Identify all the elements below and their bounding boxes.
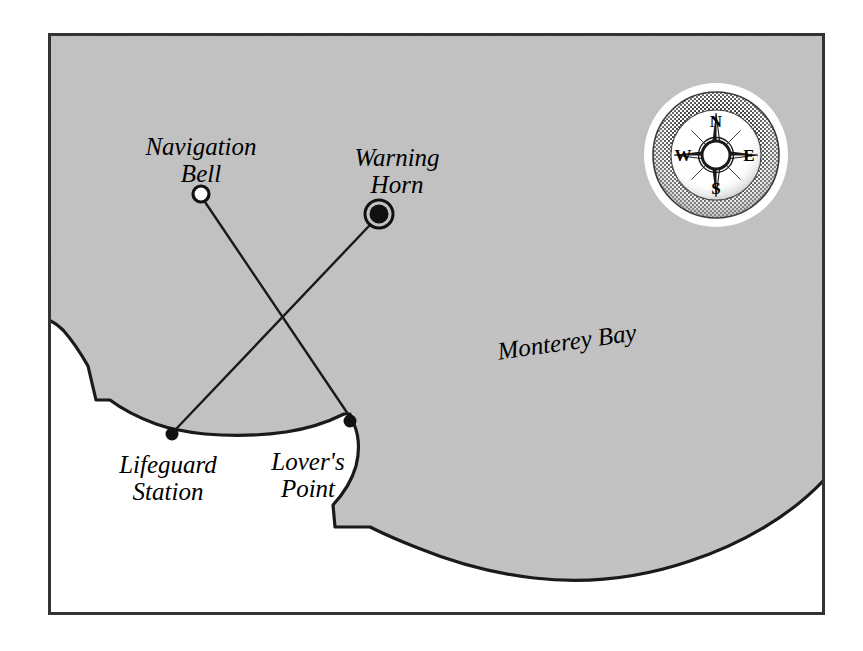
- label-lovers-point-line2: Point: [280, 475, 336, 502]
- label-navigation-bell-line1: Navigation: [144, 133, 256, 160]
- marker-lovers-point[interactable]: [344, 415, 357, 428]
- marker-warning-horn[interactable]: [365, 200, 393, 228]
- compass-label-north: N: [710, 112, 723, 131]
- label-lovers-point-line1: Lover's: [270, 448, 344, 475]
- label-lifeguard-station-line2: Station: [133, 478, 204, 505]
- compass-label-east: E: [743, 146, 754, 165]
- label-navigation-bell-line2: Bell: [181, 160, 221, 187]
- label-lifeguard-station-line1: Lifeguard: [118, 451, 217, 478]
- compass-label-south: S: [711, 179, 720, 198]
- compass-label-west: W: [675, 146, 692, 165]
- map-interior: Navigation Bell Warning Horn Lifeguard S…: [49, 34, 824, 614]
- map-figure: Navigation Bell Warning Horn Lifeguard S…: [0, 0, 863, 651]
- map-canvas: Navigation Bell Warning Horn Lifeguard S…: [0, 0, 863, 651]
- label-warning-horn-line2: Horn: [370, 171, 424, 198]
- compass-rose: N E S W: [644, 83, 788, 227]
- marker-navigation-bell[interactable]: [193, 186, 209, 202]
- label-warning-horn-line1: Warning: [354, 144, 439, 171]
- marker-lifeguard-station[interactable]: [166, 428, 179, 441]
